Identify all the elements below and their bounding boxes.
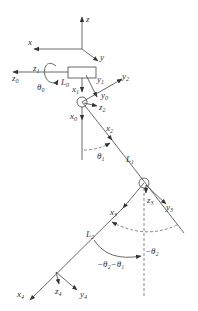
x1-label: x1 bbox=[71, 84, 79, 95]
theta2-dashed-arc bbox=[112, 222, 177, 232]
z1-label: z1 bbox=[32, 63, 40, 74]
link-L1 bbox=[82, 102, 184, 233]
x-axis-label: x bbox=[27, 37, 32, 47]
y-axis-label: y bbox=[99, 52, 104, 62]
L0-label: L0 bbox=[60, 77, 69, 88]
theta0-label: θ0 bbox=[37, 82, 44, 93]
y2-label: y2 bbox=[121, 71, 129, 82]
joint-1 bbox=[77, 75, 122, 160]
neg-theta2-label: −θ₂ bbox=[145, 246, 159, 256]
y1-label: y1 bbox=[96, 74, 104, 85]
x2-label: x2 bbox=[105, 123, 113, 134]
kinematic-diagram: z x y z1 z0 θ0 L0 x1 y1 y2 y0 z2 x0 x2 θ… bbox=[0, 0, 198, 311]
theta2-theta1-arc bbox=[94, 240, 141, 257]
z4-label: z4 bbox=[54, 286, 62, 297]
x0-label: x0 bbox=[69, 111, 77, 122]
theta1-arc bbox=[84, 143, 110, 150]
x3-label: x3 bbox=[109, 207, 117, 218]
base-block bbox=[68, 67, 96, 78]
y0-label: y0 bbox=[100, 90, 108, 101]
link-L2 bbox=[30, 183, 177, 300]
z-axis-label: z bbox=[85, 14, 90, 24]
neg-theta2-minus-theta1-label: −θ₂−θ₁ bbox=[97, 259, 124, 269]
x4-label: x4 bbox=[16, 289, 24, 300]
base-link bbox=[13, 63, 96, 82]
theta0-rotation-arrow bbox=[44, 63, 58, 82]
L2-label: L2 bbox=[85, 229, 94, 240]
z2-label: z2 bbox=[98, 102, 106, 113]
L1-label: L1 bbox=[125, 154, 134, 165]
y4-label: y4 bbox=[79, 289, 87, 300]
base-frame: z x y bbox=[27, 14, 104, 62]
theta1-label: θ1 bbox=[97, 151, 104, 162]
joint-2 bbox=[139, 178, 166, 296]
y3-label: y3 bbox=[165, 202, 173, 213]
z0-label: z0 bbox=[11, 73, 19, 84]
z3-label: z3 bbox=[146, 195, 154, 206]
